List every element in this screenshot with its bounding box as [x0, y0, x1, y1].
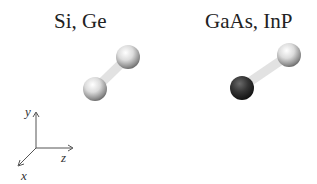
y-axis-label: y: [25, 105, 31, 118]
atom-lower-dark: [230, 76, 254, 100]
z-axis-label: z: [61, 151, 66, 164]
gaas-inp-molecule: [230, 43, 301, 100]
diagram-canvas: [0, 0, 317, 184]
atom-lower: [83, 77, 107, 101]
atom-upper-light: [277, 43, 301, 67]
x-axis-label: x: [21, 169, 27, 182]
si-ge-molecule: [83, 45, 140, 101]
atom-upper: [116, 45, 140, 69]
x-axis: [19, 148, 36, 165]
